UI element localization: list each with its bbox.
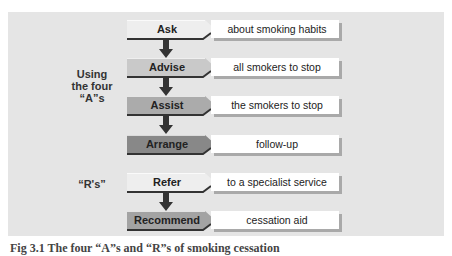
detail-box: cessation aid xyxy=(211,211,339,229)
arrow-shape xyxy=(159,77,173,97)
step-refer: Refer to a specialist service xyxy=(127,173,342,193)
group-label-four-as: Using the four “A”s xyxy=(62,68,122,104)
down-arrow-icon xyxy=(159,39,173,59)
detail-text: to a specialist service xyxy=(219,173,335,191)
detail-box: to a specialist service xyxy=(211,173,339,191)
group-label-rs: “R's” xyxy=(66,178,118,190)
detail-box: about smoking habits xyxy=(211,20,339,38)
detail-text: about smoking habits xyxy=(219,20,335,38)
action-label: Refer xyxy=(127,173,207,191)
group-label-line: the four xyxy=(62,80,122,92)
detail-box: the smokers to stop xyxy=(211,96,339,114)
diagram-panel xyxy=(8,12,444,236)
group-label-line: “R's” xyxy=(66,178,118,190)
step-ask: Ask about smoking habits xyxy=(127,20,342,40)
down-arrow-icon xyxy=(159,192,173,212)
down-arrow-icon xyxy=(159,115,173,135)
group-label-line: Using xyxy=(62,68,122,80)
arrow-shape xyxy=(159,192,173,212)
action-label: Recommend xyxy=(127,211,207,229)
action-label: Assist xyxy=(127,96,207,114)
figure-caption: Fig 3.1 The four “A”s and “R”s of smokin… xyxy=(10,241,280,256)
detail-box: follow-up xyxy=(211,135,339,153)
step-assist: Assist the smokers to stop xyxy=(127,96,342,116)
detail-text: all smokers to stop xyxy=(219,58,335,76)
detail-text: follow-up xyxy=(219,135,335,153)
detail-box: all smokers to stop xyxy=(211,58,339,76)
action-label: Ask xyxy=(127,20,207,38)
detail-text: the smokers to stop xyxy=(219,96,335,114)
step-advise: Advise all smokers to stop xyxy=(127,58,342,78)
group-label-line: “A”s xyxy=(62,92,122,104)
step-recommend: Recommend cessation aid xyxy=(127,211,342,231)
down-arrow-icon xyxy=(159,77,173,97)
action-label: Advise xyxy=(127,58,207,76)
arrow-shape xyxy=(159,115,173,135)
arrow-shape xyxy=(159,39,173,59)
action-label: Arrange xyxy=(127,135,207,153)
step-arrange: Arrange follow-up xyxy=(127,135,342,155)
detail-text: cessation aid xyxy=(219,211,335,229)
